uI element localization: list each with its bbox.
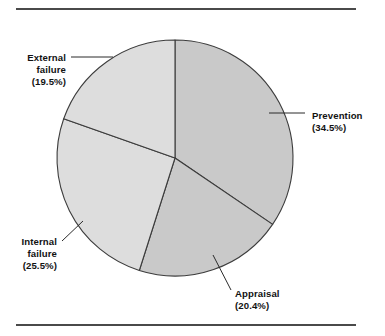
slice-label-internal-failure-line1: Internal (22, 236, 57, 247)
slice-label-internal-failure-value: (25.5%) (23, 260, 57, 271)
leader-line-internal-failure (62, 221, 83, 241)
slice-label-appraisal-value: (20.4%) (235, 300, 269, 311)
slice-label-external-failure-value: (19.5%) (32, 76, 66, 87)
slice-label-appraisal-name: Appraisal (235, 288, 280, 299)
slice-label-external-failure-line2: failure (37, 64, 67, 75)
slice-label-prevention-value: (34.5%) (312, 122, 346, 133)
pie-chart-svg: Prevention (34.5%) Appraisal (20.4%) Int… (0, 0, 385, 336)
slice-label-internal-failure-line2: failure (28, 248, 58, 259)
pie-slice-group (57, 40, 293, 276)
pie-chart-figure: Prevention (34.5%) Appraisal (20.4%) Int… (0, 0, 385, 336)
slice-label-external-failure-line1: External (27, 52, 66, 63)
slice-label-prevention-name: Prevention (312, 110, 363, 121)
